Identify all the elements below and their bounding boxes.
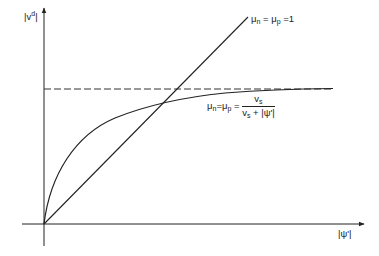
y-axis-label: |vd| [24,10,38,22]
diagram-canvas [0,0,379,256]
saturating-mobility-curve [44,89,333,225]
equals-sign: = [260,13,271,24]
num-sub: s [259,98,263,105]
value-one: =1 [281,13,294,24]
fraction-denominator: vs + |ψ'| [242,107,275,119]
y-label-close: | [35,11,37,22]
x-label-text: |ψ'| [338,228,352,239]
linear-line-label: μn = μp =1 [251,14,294,25]
mobility-fraction: vs vs + |ψ'| [242,94,275,119]
linear-mobility-line [44,17,248,224]
x-axis-label: |ψ'| [338,229,352,239]
fraction-numerator: vs [242,94,275,107]
equals-sign-2: = [231,100,242,111]
den-rest: + |ψ'| [250,107,274,118]
curve-label: μn=μp = vs vs + |ψ'| [207,94,275,119]
